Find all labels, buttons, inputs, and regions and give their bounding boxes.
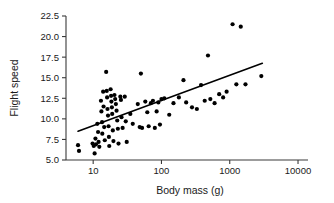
data-point — [77, 149, 81, 153]
y-tick-label: 10.0 — [41, 113, 60, 124]
data-point — [155, 109, 159, 113]
data-point — [99, 109, 103, 113]
x-tick-label: 100 — [154, 165, 170, 176]
data-point — [206, 53, 210, 57]
data-point — [110, 112, 114, 116]
data-point — [125, 140, 129, 144]
data-point — [106, 113, 110, 117]
data-point — [104, 70, 108, 74]
data-point — [121, 126, 125, 130]
y-tick-label: 7.5 — [46, 134, 59, 145]
data-point — [145, 110, 149, 114]
data-point — [103, 138, 107, 142]
data-point — [102, 125, 106, 129]
data-point — [97, 145, 101, 149]
data-point — [184, 100, 188, 104]
data-point — [110, 105, 114, 109]
data-point — [106, 124, 110, 128]
y-tick-label: 17.5 — [41, 52, 60, 63]
chart-canvas: 5.07.510.012.515.017.520.022.5 101001000… — [0, 0, 334, 203]
data-point — [109, 99, 113, 103]
data-point — [111, 139, 115, 143]
data-point — [131, 122, 135, 126]
data-point — [259, 74, 263, 78]
data-point — [99, 99, 103, 103]
data-points-group — [76, 22, 263, 155]
data-point — [116, 141, 120, 145]
data-point — [107, 144, 111, 148]
y-tick-label: 20.0 — [41, 31, 60, 42]
x-axis-title: Body mass (g) — [156, 184, 224, 196]
data-point — [114, 109, 118, 113]
data-point — [114, 102, 118, 106]
data-point — [105, 95, 109, 99]
data-point — [96, 130, 100, 134]
x-tick-group: 10100100010000 — [88, 160, 311, 176]
data-point — [167, 113, 171, 117]
data-point — [100, 132, 104, 136]
data-point — [124, 119, 128, 123]
data-point — [105, 89, 109, 93]
data-point — [136, 102, 140, 106]
y-tick-label: 15.0 — [41, 72, 60, 83]
data-point — [107, 135, 111, 139]
data-point — [171, 101, 175, 105]
data-point — [208, 97, 212, 101]
data-point — [140, 126, 144, 130]
data-point — [203, 99, 207, 103]
data-point — [158, 123, 162, 127]
data-point — [109, 87, 113, 91]
data-point — [239, 25, 243, 29]
data-point — [96, 140, 100, 144]
data-point — [147, 124, 151, 128]
data-point — [225, 90, 229, 94]
data-point — [195, 107, 199, 111]
data-point — [112, 93, 116, 97]
y-tick-group: 5.07.510.012.515.017.520.022.5 — [41, 10, 67, 165]
data-point — [212, 101, 216, 105]
data-point — [115, 118, 119, 122]
flight-speed-scatter-figure: 5.07.510.012.515.017.520.022.5 101001000… — [0, 0, 334, 203]
y-tick-label: 12.5 — [41, 93, 60, 104]
data-point — [93, 151, 97, 155]
data-point — [101, 90, 105, 94]
data-point — [111, 128, 115, 132]
data-point — [119, 98, 123, 102]
y-tick-label: 5.0 — [46, 154, 59, 165]
y-axis: 5.07.510.012.515.017.520.022.5 — [41, 10, 67, 165]
data-point — [221, 95, 225, 99]
data-point — [113, 97, 117, 101]
data-point — [153, 126, 157, 130]
data-point — [123, 95, 127, 99]
data-point — [181, 78, 185, 82]
y-axis-title: Flight speed — [8, 59, 20, 116]
data-point — [243, 82, 247, 86]
data-point — [217, 92, 221, 96]
x-tick-label: 10000 — [285, 165, 311, 176]
data-point — [139, 72, 143, 76]
x-tick-label: 1000 — [219, 165, 240, 176]
data-point — [234, 82, 238, 86]
data-point — [93, 137, 97, 141]
y-tick-label: 22.5 — [41, 10, 60, 21]
data-point — [116, 127, 120, 131]
data-point — [143, 99, 147, 103]
data-point — [230, 22, 234, 26]
data-point — [105, 107, 109, 111]
x-axis: 10100100010000 — [66, 160, 311, 176]
data-point — [101, 104, 105, 108]
data-point — [177, 95, 181, 99]
data-point — [190, 105, 194, 109]
x-tick-label: 10 — [88, 165, 99, 176]
data-point — [76, 143, 80, 147]
